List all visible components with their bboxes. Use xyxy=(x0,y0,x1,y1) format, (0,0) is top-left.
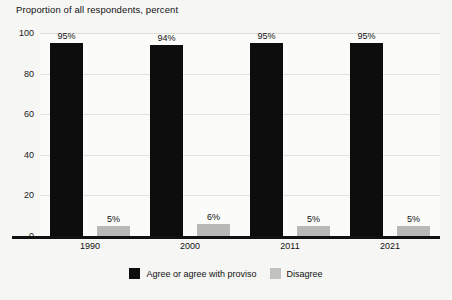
category-label-1990: 1990 xyxy=(80,241,100,251)
category-label-2011: 2011 xyxy=(280,241,299,251)
y-tick-label: 20 xyxy=(8,190,34,200)
bar-disagree-2021: 5% xyxy=(397,226,430,236)
category-label-2021: 2021 xyxy=(380,241,400,251)
chart-title: Proportion of all respondents, percent xyxy=(16,4,178,15)
plot-area: 95%5%94%6%95%5%95%5% xyxy=(40,33,440,236)
x-axis-line xyxy=(12,236,440,239)
y-tick-label: 40 xyxy=(8,150,34,160)
bar-value-label: 95% xyxy=(257,31,275,41)
bar-agree-1990: 95% xyxy=(50,43,83,236)
bar-chart: Proportion of all respondents, percent 0… xyxy=(0,0,452,300)
bar-value-label: 94% xyxy=(157,33,175,43)
legend-label-agree: Agree or agree with proviso xyxy=(146,269,256,279)
bar-agree-2011: 95% xyxy=(250,43,283,236)
bar-disagree-2011: 5% xyxy=(297,226,330,236)
bar-agree-2000: 94% xyxy=(150,45,183,236)
legend-label-disagree: Disagree xyxy=(287,269,323,279)
bar-value-label: 95% xyxy=(57,31,75,41)
bar-value-label: 5% xyxy=(407,214,420,224)
bar-value-label: 5% xyxy=(307,214,320,224)
legend-item-agree: Agree or agree with proviso xyxy=(129,268,256,279)
bar-disagree-1990: 5% xyxy=(97,226,130,236)
bar-agree-2021: 95% xyxy=(350,43,383,236)
gridline xyxy=(40,33,440,34)
y-tick-label: 80 xyxy=(8,69,34,79)
y-tick-label: 100 xyxy=(8,28,34,38)
category-label-2000: 2000 xyxy=(180,241,200,251)
bar-disagree-2000: 6% xyxy=(197,224,230,236)
bar-value-label: 6% xyxy=(207,212,220,222)
bar-value-label: 5% xyxy=(107,214,120,224)
legend-swatch-agree-icon xyxy=(129,268,140,279)
bar-value-label: 95% xyxy=(357,31,375,41)
chart-legend: Agree or agree with proviso Disagree xyxy=(0,268,452,279)
y-tick-label: 60 xyxy=(8,109,34,119)
legend-swatch-disagree-icon xyxy=(270,268,281,279)
legend-item-disagree: Disagree xyxy=(270,268,323,279)
